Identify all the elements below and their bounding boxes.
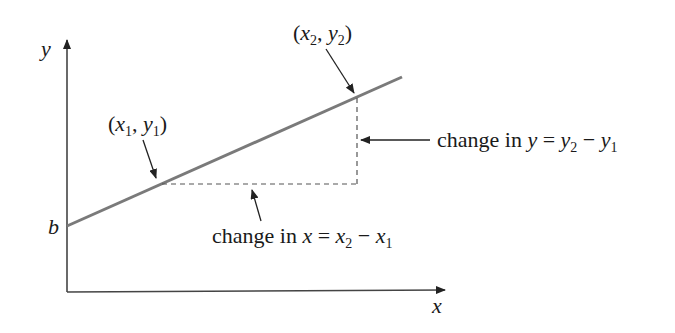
arrow-point-2 [326,49,354,93]
arrow-change-x [252,190,261,221]
y-intercept-label: b [48,214,59,239]
change-in-x-label: change in x = x2 − x1 [212,223,393,251]
line [67,77,402,226]
change-in-y-label: change in y = y2 − y1 [437,127,618,155]
slope-diagram: y x b (x1, y1) (x2, y2) change in y = y2… [0,0,675,333]
arrow-point-1 [143,140,156,178]
x-axis [67,290,445,292]
y-axis-label: y [39,36,51,61]
point-1-label: (x1, y1) [108,111,167,139]
x-axis-label: x [431,293,442,318]
point-2-label: (x2, y2) [293,20,352,48]
